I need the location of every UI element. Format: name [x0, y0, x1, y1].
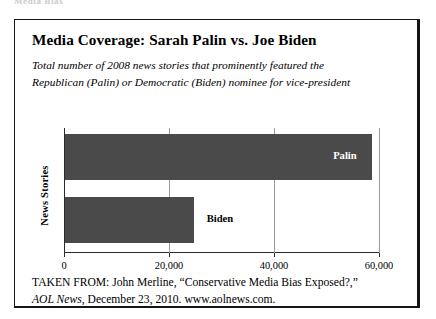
y-axis-title: News Stories [36, 140, 52, 250]
y-axis-title-label: News Stories [39, 165, 50, 225]
x-axis-tick-mark [64, 253, 65, 257]
bar-label-palin: Palin [333, 150, 357, 161]
bar-palin [65, 134, 372, 180]
source-note-line-2: AOL News, December 23, 2010. www.aolnews… [32, 292, 402, 309]
x-axis-line [64, 252, 379, 253]
bar-biden [65, 197, 194, 243]
source-prefix: TAKEN FROM: John Merline, [32, 276, 180, 289]
x-axis-tick-label: 20,000 [155, 260, 184, 271]
plot-container: News Stories 020,00040,00060,000PalinBid… [15, 124, 421, 276]
source-note: TAKEN FROM: John Merline, “Conservative … [32, 275, 402, 308]
source-publication: AOL News [32, 293, 82, 306]
chart-subtitle-line-2: Republican (Palin) or Democratic (Biden)… [32, 74, 377, 91]
running-head: Media Bias [14, 0, 164, 5]
bar-label-biden: Biden [207, 213, 234, 224]
x-axis-tick-label: 0 [61, 260, 66, 271]
plot-area: 020,00040,00060,000PalinBiden [64, 128, 379, 253]
source-note-line-1: TAKEN FROM: John Merline, “Conservative … [32, 275, 402, 292]
x-axis-tick-label: 60,000 [365, 260, 394, 271]
chart-subtitle-line-1: Total number of 2008 news stories that p… [32, 57, 377, 74]
x-axis-tick-mark [274, 253, 275, 257]
source-article-title: “Conservative Media Bias Exposed?,” [180, 276, 358, 289]
gridline-60000 [379, 128, 380, 253]
figure-box: Media Coverage: Sarah Palin vs. Joe Bide… [14, 19, 420, 308]
chart-title: Media Coverage: Sarah Palin vs. Joe Bide… [32, 31, 317, 49]
x-axis-tick-mark [169, 253, 170, 257]
figure-inner: Media Coverage: Sarah Palin vs. Joe Bide… [15, 20, 417, 306]
chart-subtitle: Total number of 2008 news stories that p… [32, 57, 377, 90]
x-axis-tick-label: 40,000 [260, 260, 289, 271]
source-publication-details: , December 23, 2010. www.aolnews.com. [82, 293, 276, 306]
x-axis-tick-mark [379, 253, 380, 257]
